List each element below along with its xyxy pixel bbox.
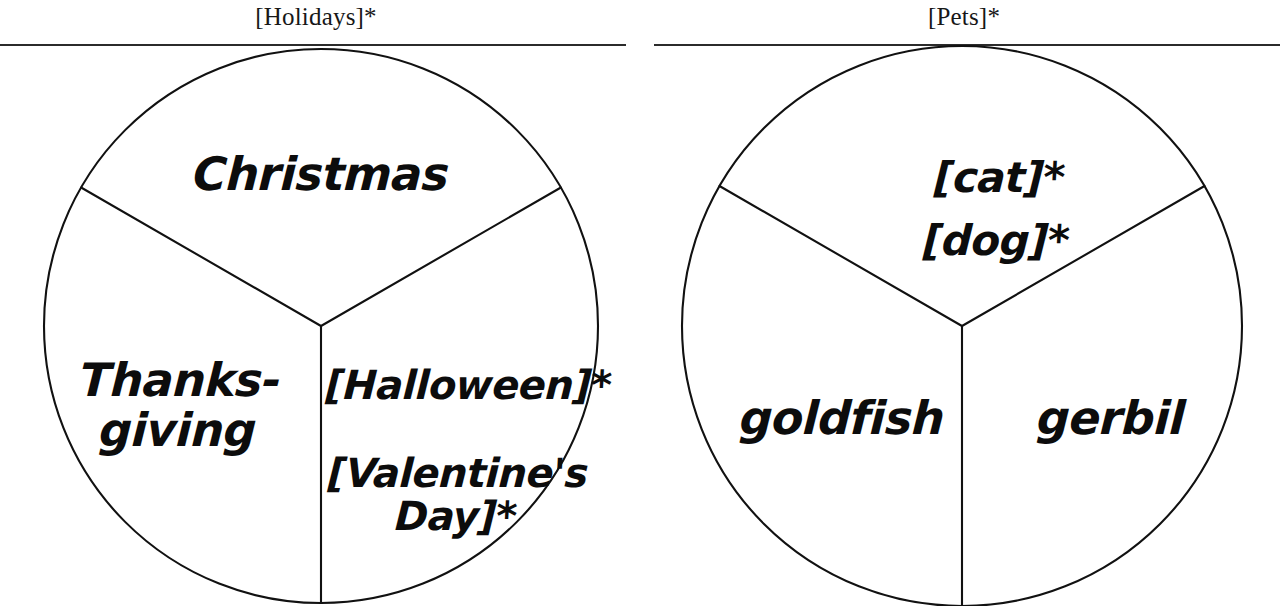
pie-chart-holidays: Christmas Thanks- giving [Halloween]* [V… [0,46,632,606]
panel-holidays: [Holidays]* Christmas Thanks- giving [Ha… [0,0,632,606]
panel-title-pets: [Pets]* [648,2,1280,32]
slice-label-cat-dog: [cat]* [dog]* [845,146,1152,272]
slice-label-goldfish: goldfish [709,394,976,444]
slice-label-christmas: Christmas [120,150,523,200]
slice-label-thanksgiving: Thanks- giving [45,356,312,455]
pie-pets-svg [648,46,1280,606]
panel-title-holidays: [Holidays]* [0,2,632,32]
figure-canvas: [Holidays]* Christmas Thanks- giving [Ha… [0,0,1280,606]
slice-label-gerbil: gerbil [995,394,1228,444]
panel-pets: [Pets]* [cat]* [dog]* goldfish gerbil [648,0,1280,606]
pie-chart-pets: [cat]* [dog]* goldfish gerbil [648,46,1280,606]
slice-label-valentines-day: [Valentine's Day]* [324,452,591,538]
slice-label-halloween: [Halloween]* [325,364,603,407]
